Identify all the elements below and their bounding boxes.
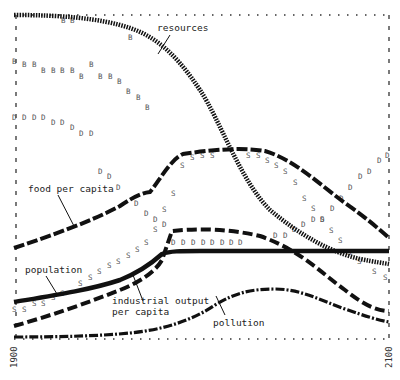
svg-text:S: S	[97, 267, 102, 276]
svg-text:S: S	[256, 151, 261, 160]
svg-text:B: B	[22, 60, 27, 69]
svg-text:S: S	[338, 236, 343, 245]
svg-text:D: D	[358, 172, 363, 181]
svg-text:B: B	[117, 77, 122, 86]
svg-text:D: D	[70, 123, 75, 132]
svg-text:S: S	[311, 204, 316, 213]
svg-text:B: B	[41, 66, 46, 75]
label-food-per-capita: food per capita	[28, 183, 114, 194]
svg-text:S: S	[302, 194, 307, 203]
label-population: population	[25, 264, 82, 275]
svg-text:D: D	[238, 238, 243, 247]
svg-text:B: B	[89, 60, 94, 69]
svg-text:D: D	[171, 238, 176, 247]
svg-text:D: D	[220, 238, 225, 247]
svg-text:S: S	[107, 261, 112, 270]
svg-text:B: B	[70, 66, 75, 75]
svg-text:B: B	[32, 60, 37, 69]
svg-text:D: D	[301, 220, 306, 229]
label-industrial-output-1: industrial output	[112, 295, 209, 306]
s-markers: S S S S S S S S S S S S S S S S S S S S …	[12, 151, 388, 314]
svg-text:S: S	[88, 273, 93, 282]
svg-text:D: D	[134, 199, 139, 208]
x-tick-2100: 2100	[384, 346, 394, 368]
svg-text:S: S	[162, 205, 167, 214]
svg-text:D: D	[385, 151, 390, 160]
svg-text:B: B	[98, 72, 103, 81]
svg-text:S: S	[41, 299, 46, 308]
svg-text:B: B	[128, 33, 133, 42]
svg-text:S: S	[116, 257, 121, 266]
svg-text:S: S	[171, 189, 176, 198]
svg-text:D: D	[210, 238, 215, 247]
svg-text:D: D	[116, 183, 121, 192]
svg-text:D: D	[191, 238, 196, 247]
label-pollution: pollution	[213, 317, 264, 328]
svg-text:B: B	[60, 66, 65, 75]
svg-text:D: D	[89, 129, 94, 138]
svg-text:D: D	[201, 238, 206, 247]
svg-text:D: D	[98, 167, 103, 176]
svg-text:D: D	[162, 220, 167, 229]
chart-canvas: B B B B B B B B B B B B B B B B B B D D …	[0, 0, 400, 380]
svg-text:S: S	[22, 305, 27, 314]
label-industrial-output-2: per capita	[112, 306, 169, 317]
svg-text:D: D	[22, 113, 27, 122]
svg-text:S: S	[180, 161, 185, 170]
svg-text:D: D	[273, 231, 278, 240]
svg-text:D: D	[283, 231, 288, 240]
svg-text:D: D	[32, 113, 37, 122]
svg-text:D: D	[60, 118, 65, 127]
svg-text:S: S	[135, 245, 140, 254]
svg-text:S: S	[153, 225, 158, 234]
label-resources: resources	[157, 22, 208, 33]
svg-text:B: B	[136, 93, 141, 102]
svg-text:S: S	[372, 267, 377, 276]
svg-text:S: S	[320, 215, 325, 224]
svg-text:B: B	[12, 57, 17, 66]
svg-text:B: B	[79, 72, 84, 81]
svg-text:D: D	[229, 238, 234, 247]
svg-text:D: D	[51, 118, 56, 127]
svg-text:D: D	[367, 167, 372, 176]
b-markers: B B B B B B B B B B B B B B B B B B	[12, 16, 150, 112]
svg-text:D: D	[41, 113, 46, 122]
svg-text:S: S	[293, 178, 298, 187]
svg-text:D: D	[144, 209, 149, 218]
svg-text:D: D	[79, 129, 84, 138]
svg-text:D: D	[348, 183, 353, 192]
svg-text:S: S	[246, 151, 251, 160]
svg-text:S: S	[329, 226, 334, 235]
svg-text:S: S	[383, 273, 388, 282]
svg-text:S: S	[12, 305, 17, 314]
svg-text:D: D	[107, 172, 112, 181]
svg-text:D: D	[330, 204, 335, 213]
svg-text:D: D	[377, 156, 382, 165]
svg-text:B: B	[108, 72, 113, 81]
svg-text:S: S	[265, 156, 270, 165]
svg-text:S: S	[78, 279, 83, 288]
svg-text:D: D	[181, 238, 186, 247]
svg-text:S: S	[283, 167, 288, 176]
svg-text:B: B	[145, 103, 150, 112]
svg-text:S: S	[126, 251, 131, 260]
svg-text:S: S	[274, 161, 279, 170]
svg-text:S: S	[144, 238, 149, 247]
svg-text:B: B	[51, 66, 56, 75]
svg-text:D: D	[153, 215, 158, 224]
x-tick-1900: 1900	[9, 346, 19, 368]
svg-text:D: D	[311, 215, 316, 224]
svg-text:B: B	[126, 87, 131, 96]
svg-text:D: D	[12, 113, 17, 122]
